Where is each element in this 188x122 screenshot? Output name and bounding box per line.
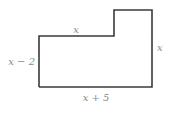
label-top-left-edge: x — [73, 24, 79, 35]
label-left-edge: x − 2 — [8, 56, 35, 67]
shape-outline — [39, 10, 152, 87]
label-bottom-edge: x + 5 — [83, 92, 110, 103]
label-right-edge: x — [157, 42, 163, 53]
composite-shape-diagram: x x − 2 x x + 5 — [0, 0, 188, 122]
